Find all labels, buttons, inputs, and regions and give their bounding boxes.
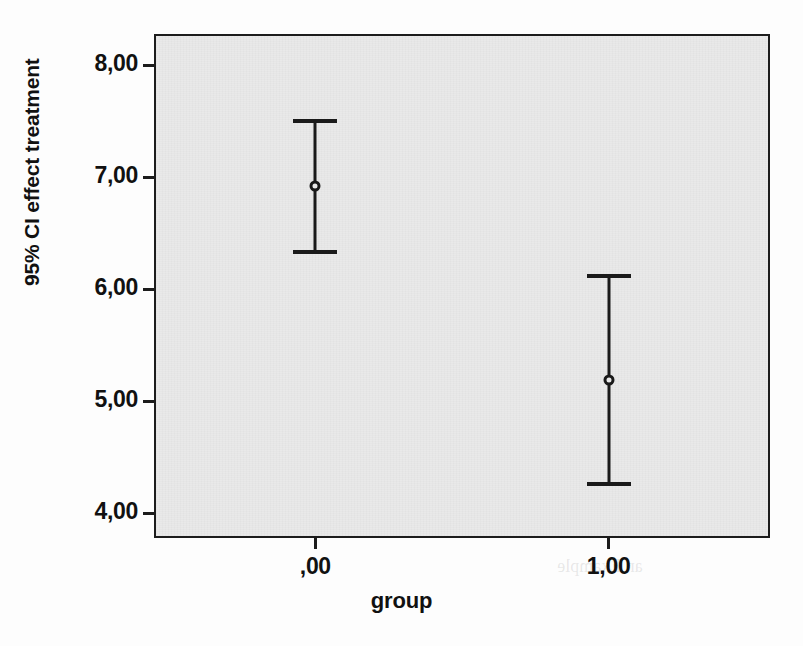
error-bar bbox=[285, 36, 345, 538]
x-axis-tick-label: ,00 bbox=[300, 553, 331, 580]
mean-marker bbox=[310, 181, 321, 192]
error-bar-lower-cap bbox=[587, 482, 631, 486]
y-axis-tick-label: 7,00 bbox=[94, 162, 138, 189]
y-axis-tick bbox=[143, 176, 154, 179]
x-axis-title: group bbox=[0, 588, 803, 614]
error-bar-lower-cap bbox=[293, 250, 337, 254]
error-bar-upper-cap bbox=[293, 119, 337, 123]
error-bar-upper-cap bbox=[587, 274, 631, 278]
y-axis-tick bbox=[143, 400, 154, 403]
x-axis-tick bbox=[607, 538, 610, 549]
y-axis-tick-label: 6,00 bbox=[94, 274, 138, 301]
plot-area bbox=[154, 34, 770, 538]
y-axis-tick bbox=[143, 288, 154, 291]
y-axis-tick-label: 8,00 bbox=[94, 50, 138, 77]
y-axis-tick-label: 4,00 bbox=[94, 498, 138, 525]
y-axis-title: 95% CI effect treatment bbox=[20, 58, 44, 286]
x-axis-tick-label: 1,00 bbox=[587, 553, 631, 580]
x-axis-tick bbox=[314, 538, 317, 549]
error-bar bbox=[579, 36, 639, 538]
y-axis-tick bbox=[143, 512, 154, 515]
y-axis-tick-label: 5,00 bbox=[94, 386, 138, 413]
mean-marker bbox=[603, 375, 614, 386]
y-axis-tick bbox=[143, 64, 154, 67]
